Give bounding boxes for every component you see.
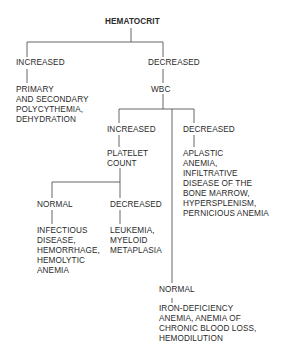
result-line: METAPLASIA: [110, 246, 162, 256]
node-wbc-decreased: DECREASED: [183, 125, 235, 135]
node-line: PLATELET: [107, 149, 148, 159]
node-hct-increased: INCREASED: [16, 58, 65, 68]
root-node-hematocrit: HEMATOCRIT: [105, 17, 160, 27]
result-line: PRIMARY: [16, 85, 54, 95]
result-line: HYPERSPLENISM,: [183, 199, 256, 209]
result-line: INFECTIOUS: [37, 226, 88, 236]
result-line: APLASTIC: [183, 149, 223, 159]
node-hct-decreased: DECREASED: [148, 58, 200, 68]
result-line: DISEASE OF THE: [183, 179, 252, 189]
result-line: HEMOLYTIC: [37, 256, 85, 266]
result-line: DEHYDRATION: [16, 115, 76, 125]
node-wbc-increased: INCREASED: [107, 125, 156, 135]
result-line: ANEMIA: [37, 266, 69, 276]
result-line: CHRONIC BLOOD LOSS,: [159, 324, 256, 334]
result-line: POLYCYTHEMIA,: [16, 105, 83, 115]
result-line: HEMORRHAGE,: [37, 246, 100, 256]
node-platelet-normal: NORMAL: [37, 200, 73, 210]
result-line: BONE MARROW,: [183, 189, 250, 199]
result-line: DISEASE,: [37, 236, 76, 246]
result-line: IRON-DEFICIENCY: [159, 304, 233, 314]
node-wbc-normal: NORMAL: [159, 285, 195, 295]
result-line: HEMODILUTION: [159, 334, 223, 344]
result-line: MYELOID: [110, 236, 148, 246]
result-line: ANEMIA,: [183, 159, 217, 169]
result-line: AND SECONDARY: [16, 95, 89, 105]
result-line: LEUKEMIA,: [110, 226, 155, 236]
result-line: ANEMIA, ANEMIA OF: [159, 314, 241, 324]
result-line: PERNICIOUS ANEMIA: [183, 209, 269, 219]
node-line: COUNT: [107, 159, 137, 169]
result-line: INFILTRATIVE: [183, 169, 238, 179]
node-platelet-decreased: DECREASED: [110, 200, 162, 210]
node-wbc: WBC: [151, 85, 170, 95]
